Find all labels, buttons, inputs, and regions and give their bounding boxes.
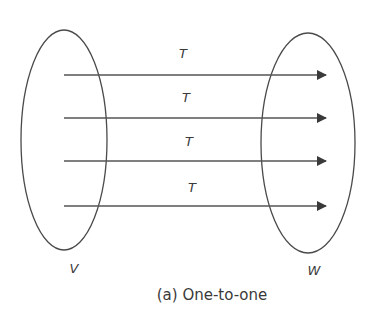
mapping-diagram <box>0 0 390 315</box>
mapping-label-2: T <box>182 91 190 104</box>
set-v-label: V <box>70 262 79 275</box>
set-w-ellipse <box>261 33 355 253</box>
diagram-caption: (a) One-to-one <box>157 288 268 303</box>
mapping-label-4: T <box>188 181 196 194</box>
set-w-label: W <box>308 264 321 277</box>
set-v-ellipse <box>21 30 107 250</box>
mapping-label-3: T <box>185 135 193 148</box>
mapping-label-1: T <box>179 47 187 60</box>
